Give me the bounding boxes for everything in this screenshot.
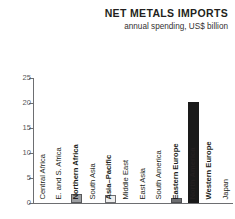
category-label: Central Africa [39,154,47,200]
category-label: Western Europe [206,142,214,200]
y-tick-label: 5 [27,173,31,182]
y-tick-label: 20 [23,98,31,107]
category-label: Northern Africa [72,145,80,200]
chart-title-block: NET METALS IMPORTS annual spending, US$ … [105,8,228,31]
category-label: E. and S. Africa [56,148,64,200]
category-label: East Asia [139,168,147,200]
category-label: Japan [222,179,230,200]
category-label: Eastern Europe [172,144,180,200]
category-label: Asia–Pacific [106,155,114,200]
x-axis-line [33,203,233,204]
y-tick-label: 15 [23,123,31,132]
category-label: North America [189,148,197,200]
y-tick-label: 0 [27,198,31,207]
chart-title: NET METALS IMPORTS [105,8,228,20]
y-tick-label: 10 [23,148,31,157]
chart-subtitle: annual spending, US$ billion [105,22,228,31]
net-metals-imports-chart: NET METALS IMPORTS annual spending, US$ … [0,0,235,219]
category-label: South America [156,151,164,200]
y-tick-label: 25 [23,73,31,82]
category-label: South Asia [89,164,97,200]
category-label: Middle East [122,160,130,200]
plot-area: 0510152025 Central AfricaE. and S. Afric… [33,78,233,203]
y-axis-line [33,78,34,203]
